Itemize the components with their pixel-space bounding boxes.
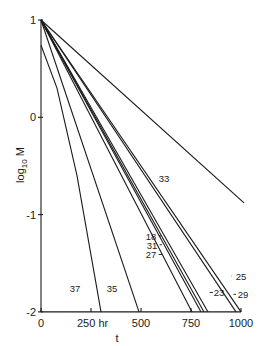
series-label-33: 33 [159,173,170,184]
y-tick-label: -1 [26,209,36,221]
x-tick-label: 250 hr [77,317,109,329]
series-line-25 [41,20,236,312]
series-line-37 [41,45,101,312]
y-tick-label: -2 [26,306,36,318]
series-lines [41,20,244,312]
x-tick-label: 750 [182,317,200,329]
series-label-25: 25 [236,271,247,282]
series-label-27: 27 [146,249,157,260]
series-line-27 [41,20,192,312]
x-tick-label: 0 [38,317,44,329]
series-label-23: 23 [214,287,225,298]
y-axis-label: log10 M [14,147,29,183]
x-axis-label: t [115,332,118,344]
y-tick-label: 0 [30,111,36,123]
x-tick-label: 1000 [229,317,253,329]
x-tick-label: 500 [132,317,150,329]
y-tick-label: 1 [30,14,36,26]
series-line-29 [41,20,241,312]
chart: 10-1-20250 hr5007501000tlog10 M 37353318… [0,0,262,346]
series-label-29: 29 [238,289,249,300]
series-label-35: 35 [107,283,118,294]
series-label-37: 37 [70,283,81,294]
